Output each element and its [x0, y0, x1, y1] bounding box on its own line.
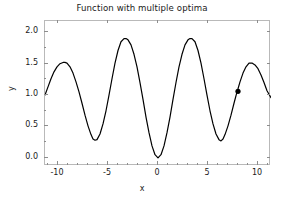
x-tick-top — [257, 20, 258, 23]
function-curve-svg — [45, 21, 271, 166]
x-tick-major — [207, 161, 208, 165]
x-tick-label: 0 — [137, 168, 177, 177]
selected-point-marker[interactable] — [235, 89, 240, 94]
x-tick-label: -5 — [87, 168, 127, 177]
x-tick-minor — [187, 163, 188, 165]
y-tick-major — [44, 63, 48, 64]
y-tick-right — [267, 31, 270, 32]
x-tick-minor — [197, 163, 198, 165]
x-tick-minor — [117, 163, 118, 165]
x-tick-minor — [137, 163, 138, 165]
x-tick-label: 10 — [237, 168, 277, 177]
x-tick-minor — [247, 163, 248, 165]
x-tick-minor — [177, 163, 178, 165]
y-tick-minor — [44, 47, 46, 48]
y-tick-right — [267, 94, 270, 95]
x-tick-major — [57, 161, 58, 165]
x-tick-minor — [77, 163, 78, 165]
y-tick-label: 1.5 — [8, 58, 38, 67]
x-tick-major — [257, 161, 258, 165]
x-tick-minor — [147, 163, 148, 165]
y-tick-label: 0.5 — [8, 120, 38, 129]
y-axis-label: y — [7, 74, 16, 104]
y-tick-major — [44, 125, 48, 126]
y-tick-major — [44, 157, 48, 158]
y-tick-label: 0.0 — [8, 152, 38, 161]
y-tick-right — [267, 63, 270, 64]
y-tick-right — [267, 157, 270, 158]
y-tick-minor — [44, 110, 46, 111]
x-tick-minor — [267, 163, 268, 165]
x-tick-minor — [237, 163, 238, 165]
x-tick-minor — [167, 163, 168, 165]
plot-area — [44, 20, 270, 165]
x-tick-label: 5 — [187, 168, 227, 177]
x-tick-major — [107, 161, 108, 165]
chart-figure: Function with multiple optima -10-505100… — [0, 0, 284, 202]
y-tick-minor — [44, 78, 46, 79]
y-tick-major — [44, 94, 48, 95]
x-tick-minor — [217, 163, 218, 165]
x-tick-major — [157, 161, 158, 165]
x-tick-top — [157, 20, 158, 23]
function-curve — [45, 39, 271, 158]
y-tick-right — [267, 125, 270, 126]
x-tick-label: -10 — [37, 168, 77, 177]
x-tick-top — [207, 20, 208, 23]
y-tick-major — [44, 31, 48, 32]
x-tick-minor — [47, 163, 48, 165]
x-tick-minor — [97, 163, 98, 165]
x-tick-top — [107, 20, 108, 23]
x-tick-top — [57, 20, 58, 23]
x-tick-minor — [227, 163, 228, 165]
x-axis-label: x — [0, 184, 284, 193]
x-tick-minor — [67, 163, 68, 165]
x-tick-minor — [87, 163, 88, 165]
x-tick-minor — [127, 163, 128, 165]
chart-title: Function with multiple optima — [0, 3, 284, 13]
y-tick-minor — [44, 141, 46, 142]
y-tick-label: 2.0 — [8, 26, 38, 35]
